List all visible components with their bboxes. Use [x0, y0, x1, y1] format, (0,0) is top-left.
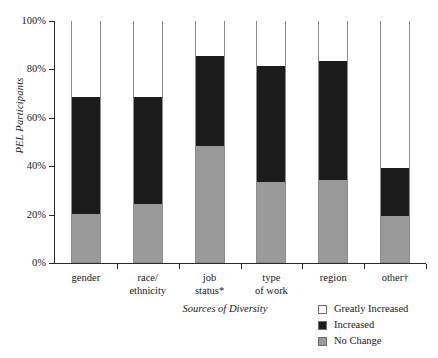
legend-label: Increased — [334, 320, 374, 331]
bar-segment — [72, 20, 100, 97]
legend-label: Greatly Increased — [334, 304, 408, 315]
bar-segment — [196, 146, 224, 262]
bar-segment — [319, 61, 347, 180]
bar-segment — [319, 20, 347, 61]
x-axis-title: Sources of Diversity — [150, 303, 300, 314]
bar-column[interactable] — [318, 21, 348, 263]
legend-swatch-icon — [318, 305, 327, 314]
legend-item[interactable]: Greatly Increased — [318, 302, 438, 317]
legend-item[interactable]: Increased — [318, 318, 438, 333]
legend-swatch-icon — [318, 321, 327, 330]
x-axis-tick-mark — [179, 264, 180, 269]
bar-stack — [133, 21, 163, 263]
y-axis-tick-label: 100% — [12, 16, 46, 27]
x-axis-tick-label: other† — [355, 272, 435, 285]
bar-segment — [196, 20, 224, 56]
y-axis-tick-label: 0% — [12, 258, 46, 269]
bar-segment — [134, 20, 162, 97]
y-axis-tick-label: 60% — [12, 113, 46, 124]
bar-column[interactable] — [71, 21, 101, 263]
y-axis-tick-label: 80% — [12, 64, 46, 75]
y-axis-tick-label: 20% — [12, 209, 46, 220]
bar-column[interactable] — [256, 21, 286, 263]
bar-segment — [134, 204, 162, 262]
bar-segment — [381, 216, 409, 262]
bar-stack — [256, 21, 286, 263]
bar-segment — [134, 97, 162, 203]
bar-segment — [381, 20, 409, 168]
stacked-bar-chart: PEL Participants 0%20%40%60%80%100% gend… — [0, 0, 438, 358]
chart-legend: Greatly IncreasedIncreasedNo Change — [318, 302, 438, 350]
x-axis-tick-mark — [364, 264, 365, 269]
bar-segment — [72, 97, 100, 213]
bar-segment — [257, 182, 285, 262]
bar-segment — [72, 214, 100, 262]
bar-column[interactable] — [133, 21, 163, 263]
bar-segment — [257, 20, 285, 66]
bar-column[interactable] — [195, 21, 225, 263]
x-axis-tick-mark — [241, 264, 242, 269]
bar-stack — [318, 21, 348, 263]
legend-label: No Change — [334, 336, 382, 347]
bar-stack — [380, 21, 410, 263]
bar-segment — [381, 168, 409, 216]
bar-stack — [195, 21, 225, 263]
y-axis-tick-labels: 0%20%40%60%80%100% — [8, 0, 46, 358]
legend-swatch-icon — [318, 337, 327, 346]
y-axis-tick-label: 40% — [12, 161, 46, 172]
bar-stack — [71, 21, 101, 263]
bar-segment — [319, 180, 347, 262]
bar-segment — [196, 56, 224, 146]
bar-column[interactable] — [380, 21, 410, 263]
legend-item[interactable]: No Change — [318, 334, 438, 349]
x-axis-tick-mark — [117, 264, 118, 269]
plot-area — [55, 21, 426, 263]
x-axis-tick-mark — [302, 264, 303, 269]
y-axis-tick-mark — [49, 263, 55, 264]
x-axis-tick-mark — [426, 264, 427, 269]
bar-segment — [257, 66, 285, 182]
